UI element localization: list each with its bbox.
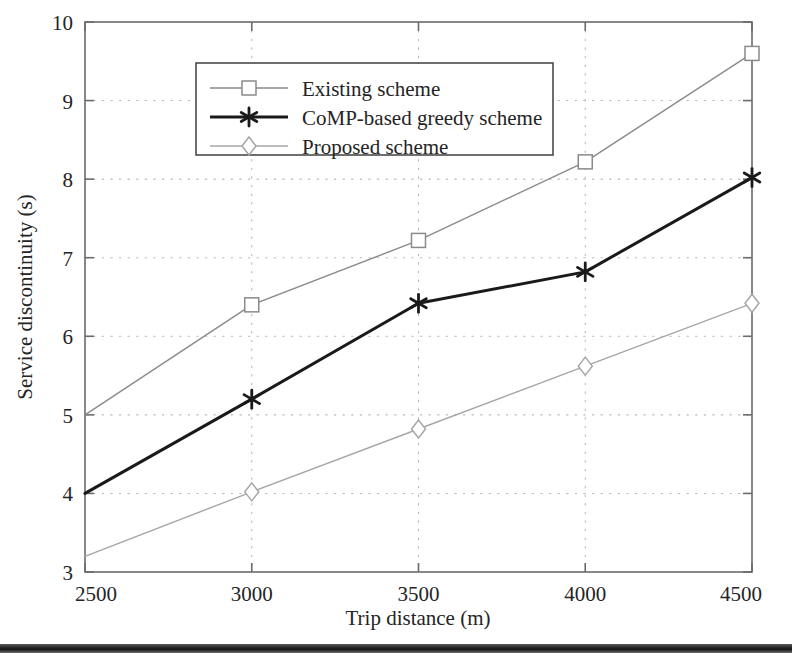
marker-square xyxy=(245,298,259,312)
x-tick-label: 3500 xyxy=(398,582,440,606)
chart-svg: 345678910 25003000350040004500 Trip dist… xyxy=(0,0,792,666)
x-tick-label: 2500 xyxy=(75,582,117,606)
marker-square xyxy=(578,155,592,169)
y-axis-title: Service discontinuity (s) xyxy=(13,194,37,399)
y-tick-label: 10 xyxy=(52,11,73,35)
marker-diamond xyxy=(412,420,426,438)
legend-label: CoMP-based greedy scheme xyxy=(302,106,542,130)
y-axis-tick-labels: 345678910 xyxy=(52,11,74,585)
marker-square xyxy=(412,233,426,247)
footer-rule xyxy=(0,644,792,653)
marker-diamond xyxy=(245,483,259,501)
y-tick-label: 5 xyxy=(63,404,74,428)
x-tick-label: 3000 xyxy=(231,582,273,606)
x-tick-label: 4500 xyxy=(720,582,762,606)
marker-diamond xyxy=(745,294,759,312)
y-tick-label: 4 xyxy=(63,482,74,506)
figure-container: 345678910 25003000350040004500 Trip dist… xyxy=(0,0,792,666)
x-axis-tick-labels: 25003000350040004500 xyxy=(75,582,762,606)
legend-label: Proposed scheme xyxy=(302,135,448,159)
x-tick-label: 4000 xyxy=(564,582,606,606)
x-axis-title: Trip distance (m) xyxy=(345,606,490,630)
marker-square xyxy=(745,46,759,60)
y-tick-label: 3 xyxy=(63,561,74,585)
legend: Existing schemeCoMP-based greedy schemeP… xyxy=(196,63,553,159)
legend-label: Existing scheme xyxy=(302,77,440,101)
y-tick-label: 9 xyxy=(63,90,74,114)
series-comp-based-greedy-scheme xyxy=(85,169,760,494)
marker-square xyxy=(242,81,256,95)
y-tick-label: 8 xyxy=(63,168,74,192)
series-proposed-scheme xyxy=(85,294,759,556)
series-line xyxy=(85,178,752,494)
y-tick-label: 6 xyxy=(63,325,74,349)
marker-diamond xyxy=(578,357,592,375)
y-tick-label: 7 xyxy=(63,247,74,271)
